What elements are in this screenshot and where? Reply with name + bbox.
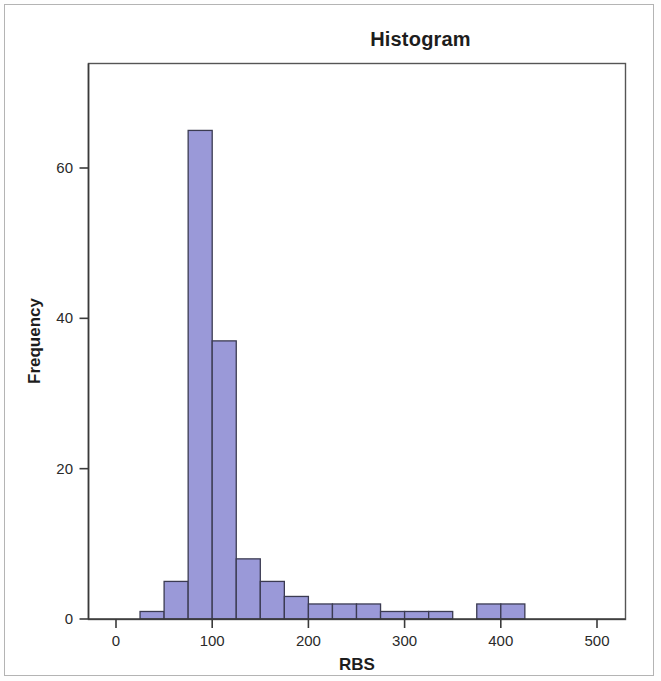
x-tick-label: 500 [584, 632, 609, 649]
histogram-page: Histogram 0100200300400500 0204060 RBS F… [0, 0, 661, 681]
histogram-bar [332, 604, 356, 619]
histogram-bar [140, 611, 164, 619]
histogram-bar [284, 596, 308, 619]
plot-area: 0100200300400500 0204060 RBS Frequency [0, 0, 661, 681]
x-tick-label: 300 [392, 632, 417, 649]
histogram-bar [357, 604, 381, 619]
histogram-bar [308, 604, 332, 619]
histogram-bar [188, 130, 212, 619]
x-tick-label: 200 [296, 632, 321, 649]
bars-group [140, 130, 525, 619]
x-axis-ticks: 0100200300400500 [112, 619, 610, 649]
y-axis-title: Frequency [25, 297, 44, 384]
y-tick-label: 20 [56, 460, 73, 477]
histogram-bar [164, 581, 188, 619]
x-tick-label: 400 [488, 632, 513, 649]
histogram-bar [236, 559, 260, 619]
histogram-bar [381, 611, 405, 619]
histogram-bar [501, 604, 525, 619]
plot-box-border [89, 64, 626, 620]
histogram-bar [212, 341, 236, 619]
histogram-bar [260, 581, 284, 619]
histogram-bar [405, 611, 429, 619]
histogram-bar [429, 611, 453, 619]
x-tick-label: 0 [112, 632, 120, 649]
y-tick-label: 0 [65, 610, 73, 627]
y-axis-ticks: 0204060 [56, 159, 88, 627]
histogram-svg: 0100200300400500 0204060 RBS Frequency [0, 0, 661, 681]
y-tick-label: 60 [56, 159, 73, 176]
x-tick-label: 100 [200, 632, 225, 649]
histogram-bar [477, 604, 501, 619]
x-axis-title: RBS [339, 655, 375, 674]
axes-group [89, 64, 626, 620]
y-tick-label: 40 [56, 309, 73, 326]
